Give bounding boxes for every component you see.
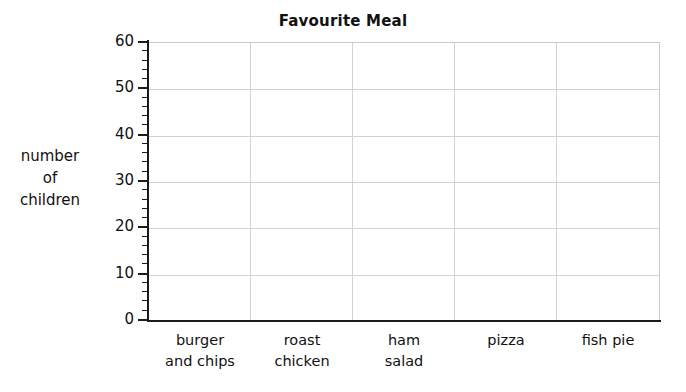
- x-category-label-burger-and-chips: burger and chips: [149, 330, 251, 372]
- y-tick-minor: [142, 50, 148, 51]
- y-tick-50: [138, 87, 148, 89]
- y-tick-label-40: 40: [94, 127, 134, 142]
- y-tick-minor: [142, 143, 148, 144]
- y-tick-label-30: 30: [94, 173, 134, 188]
- chart-container: Favourite Meal number of children: [0, 0, 686, 392]
- y-tick-label-0: 0: [94, 312, 134, 327]
- x-category-line-1: burger: [149, 330, 251, 351]
- y-tick-30: [138, 180, 148, 182]
- y-tick-minor: [142, 124, 148, 125]
- y-tick-minor: [142, 106, 148, 107]
- x-category-label-ham-salad: ham salad: [353, 330, 455, 372]
- plot-area: [148, 42, 660, 320]
- y-tick-60: [138, 41, 148, 43]
- y-tick-minor: [142, 199, 148, 200]
- y-tick-minor: [142, 282, 148, 283]
- y-axis-title-line-1: number: [10, 145, 90, 167]
- y-axis-title-line-3: children: [10, 189, 90, 211]
- x-category-line-1: fish pie: [557, 330, 659, 351]
- y-tick-minor: [142, 78, 148, 79]
- y-tick-10: [138, 273, 148, 275]
- x-category-line-1: roast: [251, 330, 353, 351]
- y-tick-minor: [142, 69, 148, 70]
- y-tick-minor: [142, 208, 148, 209]
- y-tick-label-20: 20: [94, 219, 134, 234]
- x-axis-line: [147, 320, 661, 322]
- gridline-horizontal: [148, 182, 659, 183]
- gridline-horizontal: [148, 228, 659, 229]
- y-tick-minor: [142, 161, 148, 162]
- x-category-line-2: salad: [353, 351, 455, 372]
- y-tick-minor: [142, 236, 148, 237]
- y-axis-tick-labels: 60 50 40 30 20 10 0: [88, 0, 134, 392]
- y-tick-minor: [142, 291, 148, 292]
- y-tick-minor: [142, 97, 148, 98]
- y-tick-minor: [142, 152, 148, 153]
- y-tick-minor: [142, 217, 148, 218]
- y-axis-title-line-2: of: [10, 167, 90, 189]
- x-category-line-2: chicken: [251, 351, 353, 372]
- gridline-horizontal: [148, 89, 659, 90]
- x-category-label-roast-chicken: roast chicken: [251, 330, 353, 372]
- y-tick-minor: [142, 263, 148, 264]
- y-tick-label-50: 50: [94, 80, 134, 95]
- y-tick-minor: [142, 245, 148, 246]
- y-tick-minor: [142, 189, 148, 190]
- y-tick-minor: [142, 254, 148, 255]
- y-tick-minor: [142, 300, 148, 301]
- gridline-horizontal: [148, 136, 659, 137]
- x-category-line-2: and chips: [149, 351, 251, 372]
- y-tick-label-60: 60: [94, 34, 134, 49]
- y-tick-20: [138, 226, 148, 228]
- y-tick-minor: [142, 60, 148, 61]
- y-tick-0: [138, 319, 148, 321]
- y-tick-40: [138, 134, 148, 136]
- gridline-horizontal: [148, 275, 659, 276]
- y-tick-minor: [142, 115, 148, 116]
- y-tick-label-10: 10: [94, 266, 134, 281]
- y-tick-minor: [142, 171, 148, 172]
- x-category-line-1: ham: [353, 330, 455, 351]
- x-category-line-1: pizza: [455, 330, 557, 351]
- y-axis-title: number of children: [10, 145, 90, 211]
- x-category-label-fish-pie: fish pie: [557, 330, 659, 351]
- x-category-label-pizza: pizza: [455, 330, 557, 351]
- y-tick-minor: [142, 310, 148, 311]
